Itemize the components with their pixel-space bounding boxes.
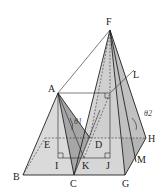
label-B: B <box>13 171 20 182</box>
label-theta2: θ2 <box>144 109 152 118</box>
label-G: G <box>122 178 129 189</box>
label-K: K <box>82 160 90 171</box>
label-E: E <box>44 139 50 150</box>
label-C: C <box>70 178 77 189</box>
label-M: M <box>137 154 146 165</box>
label-D: D <box>95 139 102 150</box>
label-J: J <box>106 160 110 171</box>
label-theta1: θ1 <box>74 117 82 126</box>
label-L: L <box>133 69 139 80</box>
label-H: H <box>148 133 155 144</box>
geometry-diagram: F A L θ2 θ1 H E D M I K J B C G <box>0 0 164 195</box>
label-I: I <box>55 160 58 171</box>
label-F: F <box>106 16 112 27</box>
label-A: A <box>48 83 56 94</box>
